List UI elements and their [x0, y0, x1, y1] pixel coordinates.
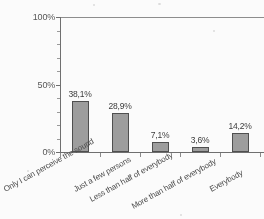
y-minor-tick-30: [57, 112, 60, 113]
y-axis-label-100: 100%: [33, 12, 55, 22]
y-minor-tick-60: [57, 71, 60, 72]
x-axis-category-label-4: Everybody: [208, 168, 244, 194]
x-tick-1: [100, 153, 101, 157]
x-tick-5: [260, 153, 261, 157]
y-minor-tick-20: [57, 125, 60, 126]
y-minor-tick-90: [57, 31, 60, 32]
plot-area: 100% 50% 0% 38,1% 28,9% 7,1% 3,6% 14,2%: [60, 17, 264, 152]
y-axis-label-50: 50%: [38, 80, 55, 90]
x-axis-line: [60, 152, 264, 153]
x-tick-3: [180, 153, 181, 157]
scan-speck: [180, 214, 182, 216]
y-axis-label-0: 0%: [42, 147, 55, 157]
x-tick-4: [220, 153, 221, 157]
bar-value-more-than-half-of-everybody: 3,6%: [191, 135, 210, 145]
bar-everybody: [232, 133, 249, 152]
y-minor-tick-80: [57, 44, 60, 45]
y-tick-50: [56, 85, 61, 86]
scan-speck: [158, 3, 161, 5]
bar-value-less-than-half-of-everybody: 7,1%: [151, 130, 170, 140]
y-tick-100: [56, 17, 61, 18]
y-minor-tick-10: [57, 139, 60, 140]
bar-more-than-half-of-everybody: [192, 147, 209, 152]
chart-figure: 100% 50% 0% 38,1% 28,9% 7,1% 3,6% 14,2%: [0, 0, 264, 219]
x-tick-2: [140, 153, 141, 157]
scan-speck: [93, 4, 95, 6]
bar-value-everybody: 14,2%: [228, 121, 251, 131]
bar-just-a-few-persons: [112, 113, 129, 152]
bar-value-only-i-can-perceive-the-sound: 38,1%: [68, 89, 91, 99]
bar-value-just-a-few-persons: 28,9%: [108, 101, 131, 111]
bar-less-than-half-of-everybody: [152, 142, 169, 152]
plot-top-border: [60, 17, 264, 18]
y-minor-tick-70: [57, 58, 60, 59]
y-minor-tick-40: [57, 98, 60, 99]
scan-speck: [27, 170, 29, 172]
scan-speck: [213, 30, 215, 32]
